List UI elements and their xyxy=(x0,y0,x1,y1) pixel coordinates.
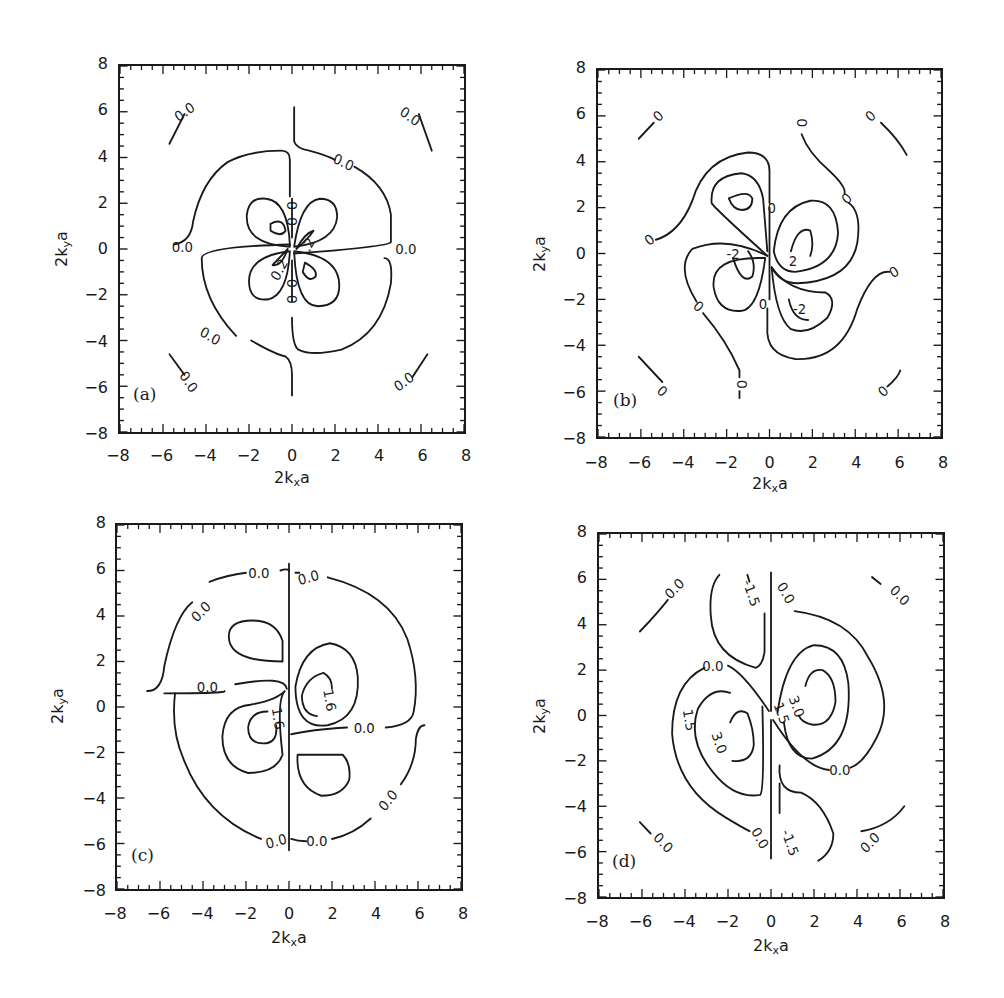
x-tick-label: 2 xyxy=(809,914,819,930)
y-tick-label: 6 xyxy=(98,102,108,118)
contour-label: 0 xyxy=(767,199,775,216)
contour-line xyxy=(774,201,838,272)
contour-label: 0.0 xyxy=(397,103,423,129)
x-tick-label: −6 xyxy=(147,906,171,922)
x-tick-label: −8 xyxy=(584,455,608,471)
contour-line xyxy=(728,666,769,711)
x-tick-label: −4 xyxy=(193,448,217,464)
y-axis-label-a: 2kya xyxy=(52,231,73,267)
contour-line xyxy=(639,123,654,139)
contour-line xyxy=(332,818,371,838)
y-tick-label: 6 xyxy=(576,106,586,122)
y-tick-label: 8 xyxy=(577,524,587,540)
x-tick-label: 0 xyxy=(284,906,294,922)
contour-line xyxy=(291,839,306,841)
contour-line xyxy=(795,611,885,768)
y-tick-label: −8 xyxy=(563,891,587,907)
y-tick-label: 2 xyxy=(577,662,587,678)
x-tick-label: 8 xyxy=(458,906,468,922)
x-tick-label: 2 xyxy=(330,448,340,464)
contour-label: 0.0 xyxy=(702,657,723,673)
contour-label: 0 xyxy=(654,382,671,400)
x-tick-label: 0 xyxy=(287,448,297,464)
y-tick-label: −4 xyxy=(84,334,108,350)
x-tick-label: 6 xyxy=(895,455,905,471)
contour-label: 0 xyxy=(794,118,809,127)
contour-line xyxy=(401,725,425,784)
contour-label: 0 xyxy=(284,217,299,226)
x-axis-label-b: 2kxa xyxy=(752,474,788,495)
contour-label: 0.0 xyxy=(354,719,375,735)
x-tick-label: 6 xyxy=(417,448,427,464)
y-tick-label: 8 xyxy=(98,56,108,72)
contour-line xyxy=(872,577,881,584)
y-tick-label: −8 xyxy=(84,426,108,442)
contour-label: 0.0 xyxy=(296,566,321,588)
contour-line xyxy=(328,577,416,727)
contour-label: 0.0 xyxy=(651,829,677,856)
plot-frame-c: 0.00.00.00.01.61.60.00.00.00.0 xyxy=(115,523,463,891)
y-tick-label: −6 xyxy=(82,837,106,853)
y-tick-label: 8 xyxy=(576,60,586,76)
panel-tag-d: (d) xyxy=(612,851,636,871)
contour-plot-a: 0.00.00.00.00.00.00.00.00000.20.2 xyxy=(120,66,464,432)
contour-label: 0.0 xyxy=(197,323,223,349)
contour-label: 0.0 xyxy=(395,241,416,257)
x-tick-label: −6 xyxy=(628,455,652,471)
contour-label: 0.0 xyxy=(774,579,798,607)
x-tick-label: −6 xyxy=(150,448,174,464)
x-tick-label: 6 xyxy=(414,906,424,922)
contour-line xyxy=(251,341,292,396)
contour-line xyxy=(292,258,391,353)
contour-lines xyxy=(639,123,907,398)
y-tick-label: −8 xyxy=(562,431,586,447)
x-tick-label: 0 xyxy=(764,455,774,471)
x-tick-label: −2 xyxy=(716,914,740,930)
contour-line xyxy=(297,755,349,796)
contour-line xyxy=(209,573,246,582)
contour-line xyxy=(672,668,749,831)
contour-line xyxy=(887,370,900,386)
x-tick-label: −4 xyxy=(672,914,696,930)
plot-frame-d: 0.0-1.50.00.00.03.01.51.53.00.00.0-1.50.… xyxy=(597,532,945,899)
contour-label: 0 xyxy=(838,189,855,207)
contour-label: -1.5 xyxy=(740,577,764,608)
panel-tag-b: (b) xyxy=(613,390,637,410)
contour-label: 0.0 xyxy=(331,150,357,174)
y-tick-label: −6 xyxy=(563,845,587,861)
x-tick-label: −2 xyxy=(237,448,261,464)
contour-lines xyxy=(640,573,904,861)
x-tick-label: −8 xyxy=(585,914,609,930)
y-tick-label: 0 xyxy=(96,699,106,715)
contour-label: 0 xyxy=(734,380,749,389)
y-tick-label: −2 xyxy=(84,287,108,303)
x-tick-label: 4 xyxy=(371,906,381,922)
contour-label: 0 xyxy=(284,295,299,304)
contour-plot-c: 0.00.00.00.01.61.60.00.00.00.0 xyxy=(117,525,461,889)
contour-line xyxy=(656,153,770,240)
y-tick-label: 6 xyxy=(577,570,587,586)
contour-label: 0.0 xyxy=(172,238,193,254)
contour-label: 0.0 xyxy=(857,829,883,856)
contour-lines xyxy=(169,107,431,395)
contour-label: 0 xyxy=(759,296,767,313)
x-tick-label: 4 xyxy=(374,448,384,464)
contour-line xyxy=(174,151,290,245)
x-tick-label: 6 xyxy=(896,914,906,930)
x-tick-label: 4 xyxy=(853,914,863,930)
contour-label: 1.6 xyxy=(269,706,288,731)
contour-line xyxy=(861,806,904,831)
x-tick-label: −2 xyxy=(714,455,738,471)
contour-label: 0.0 xyxy=(829,762,850,778)
y-tick-label: 4 xyxy=(577,616,587,632)
x-tick-label: 8 xyxy=(938,455,948,471)
contour-line xyxy=(772,203,859,283)
x-tick-label: 4 xyxy=(851,455,861,471)
contour-label: 0.0 xyxy=(661,575,687,602)
contour-label: 0 xyxy=(284,201,299,210)
contour-label: 0.0 xyxy=(248,565,269,581)
contour-line xyxy=(773,720,829,770)
contour-line xyxy=(412,354,427,377)
contour-label: 0 xyxy=(650,107,667,125)
y-tick-label: 0 xyxy=(577,708,587,724)
